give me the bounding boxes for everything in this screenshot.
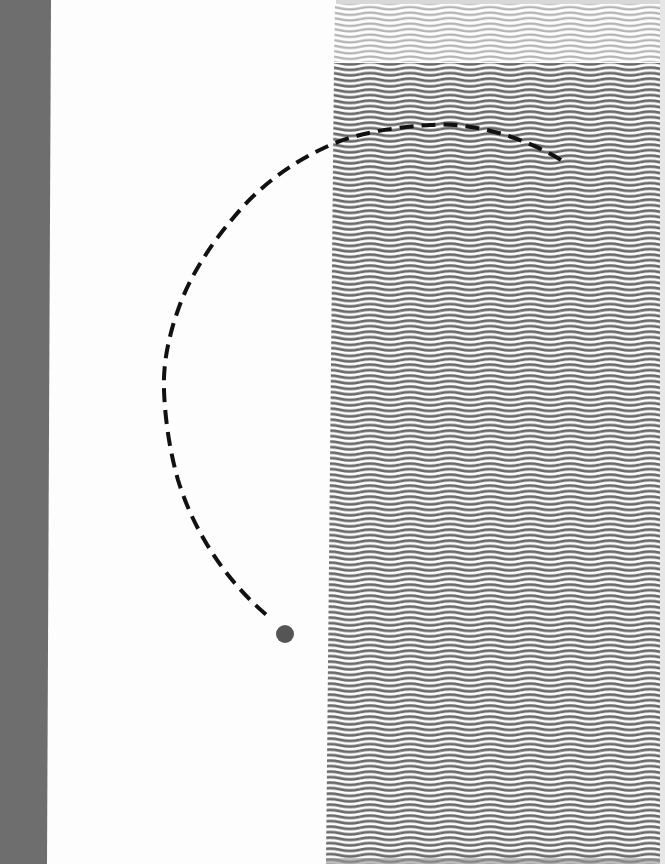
right-edge bbox=[660, 0, 665, 864]
dark-wave-band bbox=[326, 63, 660, 864]
left-gray-bar bbox=[0, 0, 51, 864]
light-wave-band bbox=[334, 4, 660, 62]
artwork-canvas bbox=[0, 0, 665, 864]
bottom-crest-row bbox=[326, 858, 660, 864]
end-dot bbox=[276, 625, 294, 643]
abstract-artwork bbox=[0, 0, 665, 864]
top-crest-row bbox=[336, 0, 660, 4]
